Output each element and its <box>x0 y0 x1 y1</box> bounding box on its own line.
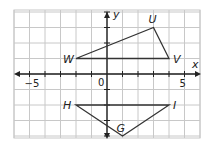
coordinate-plane: xy0−55UVWHIG <box>0 0 209 145</box>
vertex-label-g: G <box>117 122 126 135</box>
vertex-label-w: W <box>63 53 75 66</box>
tick-label: −5 <box>25 78 40 89</box>
y-axis-label: y <box>112 8 120 21</box>
vertex-label-u: U <box>149 13 157 26</box>
vertex-label-i: I <box>173 99 176 112</box>
origin-label: 0 <box>98 77 104 88</box>
x-axis-left-arrow-icon <box>14 71 20 77</box>
vertex-label-h: H <box>63 99 71 112</box>
y-axis-up-arrow-icon <box>104 12 110 18</box>
x-axis-label: x <box>191 58 199 71</box>
tick-label: 5 <box>180 78 186 89</box>
